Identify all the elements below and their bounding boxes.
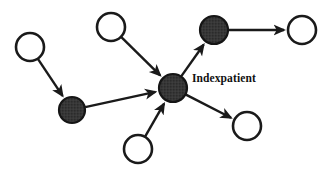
edge-bottom-mid-to-center bbox=[145, 104, 164, 137]
nodes-layer bbox=[16, 13, 316, 163]
node-far-right[interactable] bbox=[288, 16, 316, 44]
edge-center-to-bottom-right bbox=[186, 95, 231, 118]
labels-layer: Indexpatient bbox=[192, 72, 256, 85]
index-patient-label: Indexpatient bbox=[192, 72, 256, 85]
network-diagram: Indexpatient bbox=[0, 0, 333, 173]
network-graph-svg: Indexpatient bbox=[0, 0, 333, 173]
node-top-left[interactable] bbox=[16, 33, 44, 61]
node-bottom-right[interactable] bbox=[233, 112, 261, 140]
node-bottom-mid[interactable] bbox=[124, 135, 152, 163]
edge-top-middle-to-center bbox=[121, 37, 160, 75]
node-center[interactable] bbox=[159, 74, 187, 102]
edge-top-left-to-lower-left bbox=[38, 59, 63, 96]
node-lower-left[interactable] bbox=[59, 97, 85, 123]
node-top-right[interactable] bbox=[200, 16, 228, 44]
edge-lower-left-to-center bbox=[85, 92, 155, 107]
node-top-middle[interactable] bbox=[97, 13, 125, 41]
